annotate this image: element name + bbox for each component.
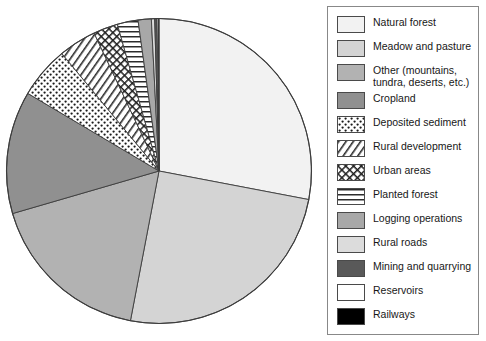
legend-label-planted-forest: Planted forest <box>373 187 438 201</box>
legend-label-meadow-and-pasture: Meadow and pasture <box>373 39 471 53</box>
legend-item-rural-development[interactable]: Rural development <box>337 139 474 160</box>
legend-item-other-mountains-tundra-deserts-etc[interactable]: Other (mountains, tundra, deserts, etc.) <box>337 63 474 88</box>
swatch-logging-operations <box>337 212 365 229</box>
swatch-urban-areas <box>337 164 365 181</box>
legend-label-reservoirs: Reservoirs <box>373 283 423 297</box>
legend-item-logging-operations[interactable]: Logging operations <box>337 211 474 232</box>
pie-slice-natural-forest[interactable] <box>159 19 312 200</box>
legend-item-reservoirs[interactable]: Reservoirs <box>337 283 474 304</box>
swatch-planted-forest <box>337 188 365 205</box>
legend-label-rural-roads: Rural roads <box>373 235 427 249</box>
swatch-other <box>337 64 365 81</box>
swatch-natural-forest <box>337 16 365 33</box>
swatch-cropland <box>337 92 365 109</box>
swatch-mining-quarrying <box>337 260 365 277</box>
pie-chart-svg <box>4 16 314 326</box>
legend-box: Natural forestMeadow and pastureOther (m… <box>327 6 479 335</box>
legend-items: Natural forestMeadow and pastureOther (m… <box>337 15 474 331</box>
pie-chart <box>4 16 314 326</box>
legend-label-deposited-sediment: Deposited sediment <box>373 115 466 129</box>
legend-item-planted-forest[interactable]: Planted forest <box>337 187 474 208</box>
legend-item-railways[interactable]: Railways <box>337 307 474 328</box>
swatch-reservoirs <box>337 284 365 301</box>
legend-label-rural-development: Rural development <box>373 139 461 153</box>
legend-item-rural-roads[interactable]: Rural roads <box>337 235 474 256</box>
legend-label-railways: Railways <box>373 307 415 321</box>
legend-item-meadow-and-pasture[interactable]: Meadow and pasture <box>337 39 474 60</box>
swatch-meadow-pasture <box>337 40 365 57</box>
legend-label-cropland: Cropland <box>373 91 416 105</box>
legend-label-natural-forest: Natural forest <box>373 15 436 29</box>
legend-label-mining-and-quarrying: Mining and quarrying <box>373 259 471 273</box>
legend-item-deposited-sediment[interactable]: Deposited sediment <box>337 115 474 136</box>
legend-item-natural-forest[interactable]: Natural forest <box>337 15 474 36</box>
legend-label-logging-operations: Logging operations <box>373 211 462 225</box>
legend-item-cropland[interactable]: Cropland <box>337 91 474 112</box>
swatch-railways <box>337 308 365 325</box>
swatch-rural-development <box>337 140 365 157</box>
swatch-rural-roads <box>337 236 365 253</box>
legend-item-urban-areas[interactable]: Urban areas <box>337 163 474 184</box>
pie-chart-figure: Natural forestMeadow and pastureOther (m… <box>0 0 486 341</box>
swatch-deposited-sediment <box>337 116 365 133</box>
legend-label-other-mountains-tundra-deserts-etc: Other (mountains, tundra, deserts, etc.) <box>373 63 469 88</box>
legend-label-urban-areas: Urban areas <box>373 163 431 177</box>
legend-item-mining-and-quarrying[interactable]: Mining and quarrying <box>337 259 474 280</box>
pie-slices-group <box>7 18 312 323</box>
